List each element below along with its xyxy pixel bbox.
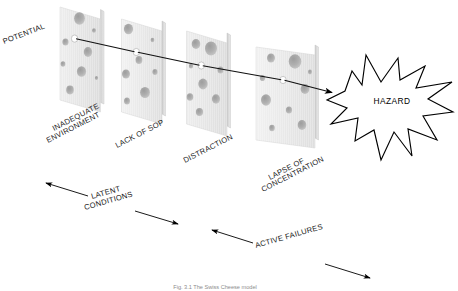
slice-2-hole-b	[151, 38, 155, 42]
slice-3-edge	[227, 33, 231, 128]
slice-3-hole-f	[187, 93, 194, 101]
slice-2-hole-e	[152, 69, 157, 75]
slice-3-hole-g	[212, 94, 220, 103]
slice-1-hole-e	[61, 61, 66, 67]
slice-4-hole-f	[261, 94, 271, 106]
barrier-slice-1	[60, 7, 104, 112]
slice-1-hole-f	[77, 66, 86, 77]
barrier-slice-3	[187, 31, 231, 136]
slice-4-hole-b	[289, 54, 302, 68]
slice-1-hole-g	[66, 86, 74, 95]
slice-2-hole-g	[124, 98, 130, 105]
slice-4-edge	[315, 45, 319, 140]
slice-3-hole-d	[218, 67, 224, 74]
slice-3-hole-a	[192, 39, 201, 49]
slice-1-edge	[101, 10, 105, 105]
figure-caption: Fig. 3.1 The Swiss Cheese model	[173, 284, 257, 290]
swiss-cheese-diagram: HAZARD POTENTIAL INADEQUATE ENVIRONMENT …	[0, 0, 458, 291]
slice-1-hole-c	[62, 38, 68, 45]
barrier-slice-2	[122, 19, 166, 124]
slice-4-hole-i	[269, 125, 275, 131]
slice-2-edge	[162, 21, 166, 116]
slice-1-hole-h	[95, 76, 98, 80]
slice-3-hole-e	[198, 79, 207, 90]
slice-3-hole-h	[196, 108, 203, 116]
slice-4-hole-c	[308, 70, 312, 75]
slice-4-hole-a	[267, 53, 275, 62]
slice-2-hole-f	[140, 87, 150, 98]
slice-2-hole-d	[122, 69, 130, 78]
slice-4-hole-g	[286, 106, 292, 113]
hazard-label: HAZARD	[374, 96, 411, 106]
barrier-slice-4	[256, 45, 319, 148]
slice-1-hole-a	[74, 12, 85, 24]
slice-1-hole-d	[84, 47, 92, 57]
slice-3-hole-b	[205, 42, 217, 56]
slice-2-hole-c	[136, 56, 143, 64]
slice-4-hole-h	[298, 120, 307, 130]
slice-1-hole-b	[92, 28, 96, 33]
slice-2-hole-a	[124, 24, 133, 35]
diagram-canvas: HAZARD POTENTIAL INADEQUATE ENVIRONMENT …	[0, 0, 458, 291]
